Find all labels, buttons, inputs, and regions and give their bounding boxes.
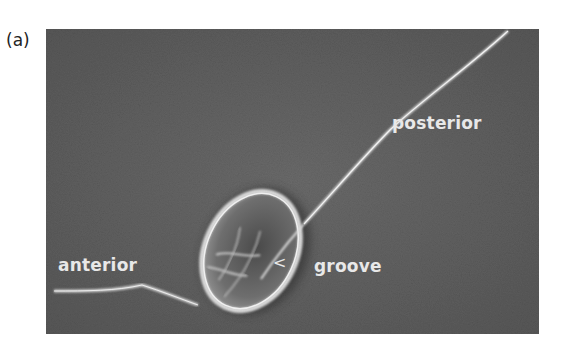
label-posterior: posterior: [392, 113, 482, 133]
sem-micrograph: posterior anterior < groove: [46, 29, 539, 334]
label-anterior: anterior: [58, 255, 137, 275]
groove-arrow-icon: <: [273, 253, 287, 272]
panel-label: (a): [6, 30, 30, 50]
label-groove: groove: [314, 256, 382, 276]
micrograph-illustration: [46, 29, 539, 334]
